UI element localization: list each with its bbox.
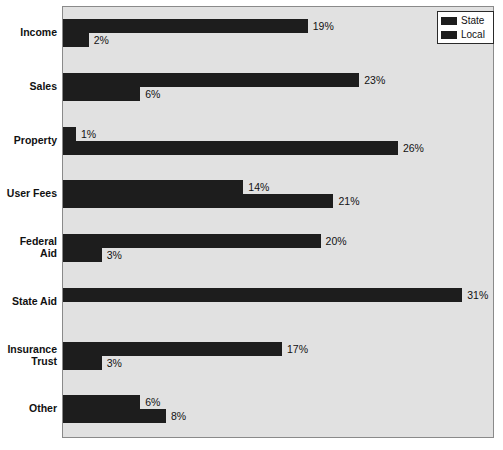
bar-value-local-user-fees: 21% <box>338 194 359 208</box>
bar-local-income <box>63 33 89 47</box>
bar-value-local-insurance-trust: 3% <box>107 356 122 370</box>
bar-value-local-property: 26% <box>403 141 424 155</box>
bar-value-state-income: 19% <box>313 19 334 33</box>
category-label-sales: Sales <box>0 80 57 92</box>
bar-state-federal-aid <box>63 234 321 248</box>
bar-value-state-federal-aid: 20% <box>326 234 347 248</box>
bar-local-federal-aid <box>63 248 102 262</box>
bar-value-state-property: 1% <box>81 127 96 141</box>
bar-chart: IncomeSalesPropertyUser FeesFederal AidS… <box>0 0 503 450</box>
bar-value-local-income: 2% <box>94 33 109 47</box>
bar-value-state-insurance-trust: 17% <box>287 342 308 356</box>
legend-swatch-icon-local <box>441 31 457 39</box>
category-label-federal-aid: Federal Aid <box>0 235 57 259</box>
bars-layer: 19%2%23%6%1%26%14%21%20%3%31%17%3%6%8% <box>63 7 493 437</box>
bar-state-sales <box>63 73 359 87</box>
bar-state-other <box>63 395 140 409</box>
category-label-state-aid: State Aid <box>0 295 57 307</box>
bar-state-income <box>63 19 308 33</box>
bar-value-state-state-aid: 31% <box>467 288 488 302</box>
legend-item-local: Local <box>441 28 490 41</box>
bar-local-insurance-trust <box>63 356 102 370</box>
bar-state-insurance-trust <box>63 342 282 356</box>
bar-state-user-fees <box>63 180 243 194</box>
bar-local-property <box>63 141 398 155</box>
bar-local-other <box>63 409 166 423</box>
category-label-user-fees: User Fees <box>0 187 57 199</box>
bar-state-state-aid <box>63 288 462 302</box>
category-label-insurance-trust: Insurance Trust <box>0 343 57 367</box>
bar-value-state-user-fees: 14% <box>248 180 269 194</box>
category-axis-labels: IncomeSalesPropertyUser FeesFederal AidS… <box>0 6 57 438</box>
bar-local-sales <box>63 87 140 101</box>
bar-value-local-federal-aid: 3% <box>107 248 122 262</box>
chart-legend: StateLocal <box>437 11 494 44</box>
bar-value-state-other: 6% <box>145 395 160 409</box>
legend-item-state: State <box>441 14 490 27</box>
bar-value-state-sales: 23% <box>364 73 385 87</box>
legend-label-state: State <box>461 14 484 27</box>
legend-swatch-icon-state <box>441 17 457 25</box>
bar-state-property <box>63 127 76 141</box>
bar-value-local-sales: 6% <box>145 87 160 101</box>
bar-value-local-other: 8% <box>171 409 186 423</box>
legend-label-local: Local <box>461 28 485 41</box>
category-label-property: Property <box>0 134 57 146</box>
category-label-other: Other <box>0 402 57 414</box>
category-label-income: Income <box>0 26 57 38</box>
bar-local-user-fees <box>63 194 333 208</box>
